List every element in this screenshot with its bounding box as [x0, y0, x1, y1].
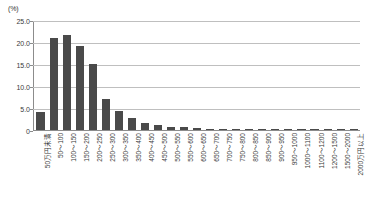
bar-slot [125, 21, 138, 130]
bar-slot [295, 21, 308, 130]
y-axis-tick-label: 10.0 [0, 84, 30, 91]
bar [128, 118, 136, 130]
bar-slot [178, 21, 191, 130]
bar-slot [151, 21, 164, 130]
x-label-slot: 800～850 [243, 133, 256, 205]
x-label-slot: 900～950 [269, 133, 282, 205]
x-label-slot: 1000～1100 [295, 133, 308, 205]
bar-slot [204, 21, 217, 130]
x-label-slot: 100～150 [60, 133, 73, 205]
x-label-slot: 450～500 [151, 133, 164, 205]
bar-slot [86, 21, 99, 130]
bar-chart: (%) 25.020.015.010.05.00 50万円未満50～100100… [0, 0, 368, 207]
x-axis-line [33, 130, 360, 131]
bar [76, 46, 84, 130]
x-label-slot: 150～200 [73, 133, 86, 205]
bar [206, 129, 214, 130]
x-label-slot: 500～550 [164, 133, 177, 205]
bar-slot [269, 21, 282, 130]
bar-slot [256, 21, 269, 130]
bar [63, 35, 71, 130]
bar [324, 129, 332, 130]
bar-slot [282, 21, 295, 130]
y-axis-tick-mark [30, 109, 33, 110]
x-label-slot: 50万円未満 [34, 133, 47, 205]
bar [232, 129, 240, 130]
bar [271, 129, 279, 130]
x-label-slot: 350～400 [125, 133, 138, 205]
bar [337, 129, 345, 130]
bar-slot [308, 21, 321, 130]
bar [50, 38, 58, 130]
x-label-slot: 650～700 [204, 133, 217, 205]
bar-slot [334, 21, 347, 130]
y-axis-tick-mark [30, 43, 33, 44]
y-axis-tick-label: 5.0 [0, 106, 30, 113]
bar [284, 129, 292, 130]
bar [245, 129, 253, 130]
bar [141, 123, 149, 130]
bar-slot [47, 21, 60, 130]
y-axis-tick-mark [30, 65, 33, 66]
bar [219, 129, 227, 130]
x-label-slot: 850～900 [256, 133, 269, 205]
bar-slot [99, 21, 112, 130]
x-axis-tick-label: 2000万円以上 [357, 133, 364, 175]
y-axis-unit-label: (%) [8, 5, 18, 12]
bar-slot [73, 21, 86, 130]
y-axis-tick-mark [30, 87, 33, 88]
x-label-slot: 300～350 [112, 133, 125, 205]
bar [297, 129, 305, 130]
bar-slot [164, 21, 177, 130]
x-label-slot: 1100～1200 [308, 133, 321, 205]
bar-series [34, 21, 360, 130]
plot-area [33, 21, 360, 131]
y-axis-tick-label: 15.0 [0, 62, 30, 69]
x-label-slot: 2000万円以上 [347, 133, 360, 205]
x-label-slot: 950～1000 [282, 133, 295, 205]
x-label-slot: 700～750 [217, 133, 230, 205]
x-label-slot: 550～600 [178, 133, 191, 205]
x-label-slot: 1500～2000 [334, 133, 347, 205]
y-axis-tick-mark [30, 21, 33, 22]
bar-slot [34, 21, 47, 130]
bar-slot [112, 21, 125, 130]
bar [167, 127, 175, 130]
bar [102, 99, 110, 130]
y-axis-tick-mark [30, 131, 33, 132]
x-label-slot: 750～800 [230, 133, 243, 205]
x-label-slot: 1200～1500 [321, 133, 334, 205]
bar [310, 129, 318, 130]
bar [350, 129, 358, 130]
bar-slot [230, 21, 243, 130]
bar [180, 127, 188, 130]
bar [89, 64, 97, 130]
x-label-slot: 400～450 [138, 133, 151, 205]
x-label-slot: 200～250 [86, 133, 99, 205]
bar-slot [60, 21, 73, 130]
y-axis-tick-label: 20.0 [0, 40, 30, 47]
bar [193, 128, 201, 130]
y-axis-tick-label: 0 [0, 128, 30, 135]
y-axis-tick-labels: 25.020.015.010.05.00 [0, 21, 30, 131]
x-label-slot: 250～300 [99, 133, 112, 205]
bar-slot [217, 21, 230, 130]
x-label-slot: 600～650 [191, 133, 204, 205]
bar [258, 129, 266, 130]
bar [154, 125, 162, 130]
y-axis-tick-label: 25.0 [0, 18, 30, 25]
bar [115, 111, 123, 130]
bar-slot [191, 21, 204, 130]
bar-slot [138, 21, 151, 130]
bar [36, 112, 44, 130]
x-axis-tick-labels: 50万円未満50～100100～150150～200200～250250～300… [34, 133, 360, 205]
bar-slot [347, 21, 360, 130]
bar-slot [243, 21, 256, 130]
x-label-slot: 50～100 [47, 133, 60, 205]
bar-slot [321, 21, 334, 130]
